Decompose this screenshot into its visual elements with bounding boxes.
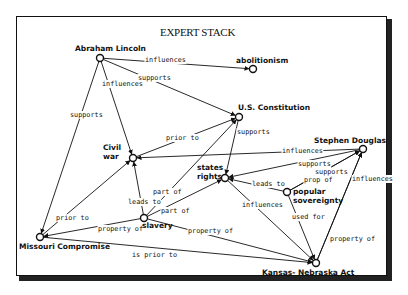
node-douglas[interactable] bbox=[360, 146, 367, 153]
node-abolitionism[interactable] bbox=[250, 66, 257, 73]
edge-lincoln-civil-war[interactable] bbox=[101, 61, 132, 154]
node-kansas-nebraska[interactable] bbox=[313, 260, 320, 267]
edge-label: supports bbox=[315, 168, 348, 176]
node-label-abolitionism: abolitionism bbox=[236, 56, 288, 65]
node-label-civil-war: Civil bbox=[103, 143, 121, 152]
edge-label: prior to bbox=[166, 134, 199, 142]
node-civil-war[interactable] bbox=[130, 155, 137, 162]
concept-map: EXPERT STACK influencessupportsinfluence… bbox=[0, 0, 408, 295]
node-label-missouri: Missouri Compromise bbox=[19, 242, 110, 251]
edge-label: property of bbox=[98, 225, 143, 233]
edge-label: property of bbox=[330, 235, 375, 243]
node-label-douglas: Stephen Douglas bbox=[314, 136, 387, 145]
edge-label: influences bbox=[282, 147, 323, 155]
edge-label: influences bbox=[102, 80, 143, 88]
node-label-popular-sovereignty: popular bbox=[293, 187, 326, 196]
edge-slavery-civil-war[interactable] bbox=[134, 162, 144, 215]
node-label-slavery: slavery bbox=[142, 221, 173, 230]
edge-label: leads to bbox=[128, 198, 161, 206]
edge-label: prior to bbox=[56, 214, 89, 222]
node-popular-sovereignty[interactable] bbox=[284, 189, 291, 196]
edge-label: influences bbox=[352, 175, 393, 183]
node-label-popular-sovereignty: sovereignty bbox=[293, 196, 343, 205]
node-states-rights[interactable] bbox=[222, 175, 229, 182]
edge-label: supports bbox=[237, 128, 270, 136]
node-label-states-rights: rights bbox=[197, 172, 223, 181]
edge-label: property of bbox=[188, 227, 233, 235]
node-constitution[interactable] bbox=[236, 114, 243, 121]
node-label-lincoln: Abraham Lincoln bbox=[75, 44, 146, 53]
edge-label: supports bbox=[298, 160, 331, 168]
edge-label: used for bbox=[292, 213, 325, 221]
edge-label: leads to bbox=[252, 180, 285, 188]
edge-label: influences bbox=[242, 201, 283, 209]
edge-label: is prior to bbox=[132, 251, 177, 259]
node-label-constitution: U.S. Constitution bbox=[238, 103, 310, 112]
node-lincoln[interactable] bbox=[97, 55, 104, 62]
edge-missouri-civil-war[interactable] bbox=[43, 161, 130, 235]
edge-label: supports bbox=[70, 111, 103, 119]
edge-label: influences bbox=[145, 56, 186, 64]
node-label-civil-war: war bbox=[103, 152, 119, 161]
edge-label: part of bbox=[153, 188, 182, 196]
edge-label: prop of bbox=[304, 176, 333, 184]
diagram-title: EXPERT STACK bbox=[160, 26, 235, 38]
node-missouri[interactable] bbox=[37, 234, 44, 241]
node-label-kansas-nebraska: Kansas- Nebraska Act bbox=[262, 268, 355, 277]
node-label-states-rights: states bbox=[197, 163, 224, 172]
edge-label: part of bbox=[161, 207, 190, 215]
edge-lincoln-missouri[interactable] bbox=[41, 61, 99, 233]
